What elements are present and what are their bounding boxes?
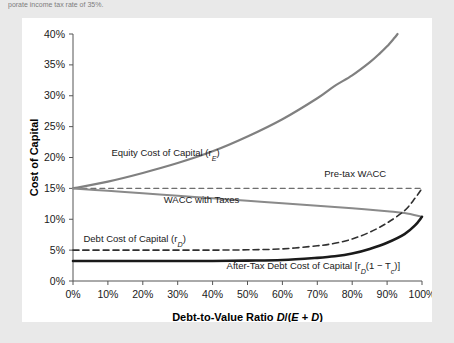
y-tick-label: 5% [50, 244, 65, 256]
axes-group: 0%5%10%15%20%25%30%35%40%0%10%20%30%40%5… [44, 28, 432, 300]
x-tick-label: 40% [202, 288, 223, 300]
x-tick-label: 70% [307, 288, 328, 300]
x-axis-title: Debt-to-Value Ratio D/(E + D) [172, 311, 323, 322]
series-line-2 [73, 188, 422, 216]
y-tick-label: 25% [44, 120, 65, 132]
y-tick-label: 40% [44, 28, 65, 40]
equity-cost-label: Equity Cost of Capital (rE) [111, 147, 219, 163]
page-caption-fragment: porate income tax rate of 35%. [8, 0, 308, 10]
pretax-wacc-label: Pre-tax WACC [324, 168, 386, 179]
wacc-with-taxes-label: WACC with Taxes [164, 194, 240, 205]
y-tick-label: 10% [44, 213, 65, 225]
x-tick-label: 20% [132, 288, 153, 300]
x-tick-label: 100% [409, 288, 432, 300]
x-tick-label: 60% [272, 288, 293, 300]
chart-panel: 0%5%10%15%20%25%30%35%40%0%10%20%30%40%5… [22, 18, 432, 322]
x-tick-label: 50% [237, 288, 258, 300]
x-tick-label: 80% [342, 288, 363, 300]
x-tick-label: 90% [377, 288, 398, 300]
y-tick-label: 15% [44, 182, 65, 194]
cost-of-capital-chart: 0%5%10%15%20%25%30%35%40%0%10%20%30%40%5… [22, 18, 432, 322]
y-tick-label: 20% [44, 151, 65, 163]
y-axis-title: Cost of Capital [28, 119, 40, 197]
aftertax-debt-cost-label: After-Tax Debt Cost of Capital [rD(1 − T… [227, 260, 401, 276]
y-tick-label: 0% [50, 275, 65, 287]
y-tick-label: 35% [44, 58, 65, 70]
debt-cost-label: Debt Cost of Capital (rD) [83, 233, 185, 249]
x-tick-label: 0% [65, 288, 80, 300]
series-line-0 [73, 34, 398, 188]
x-tick-label: 30% [167, 288, 188, 300]
y-tick-label: 30% [44, 89, 65, 101]
x-tick-label: 10% [97, 288, 118, 300]
annotation-labels-group: Equity Cost of Capital (rE)Pre-tax WACCW… [83, 147, 400, 276]
